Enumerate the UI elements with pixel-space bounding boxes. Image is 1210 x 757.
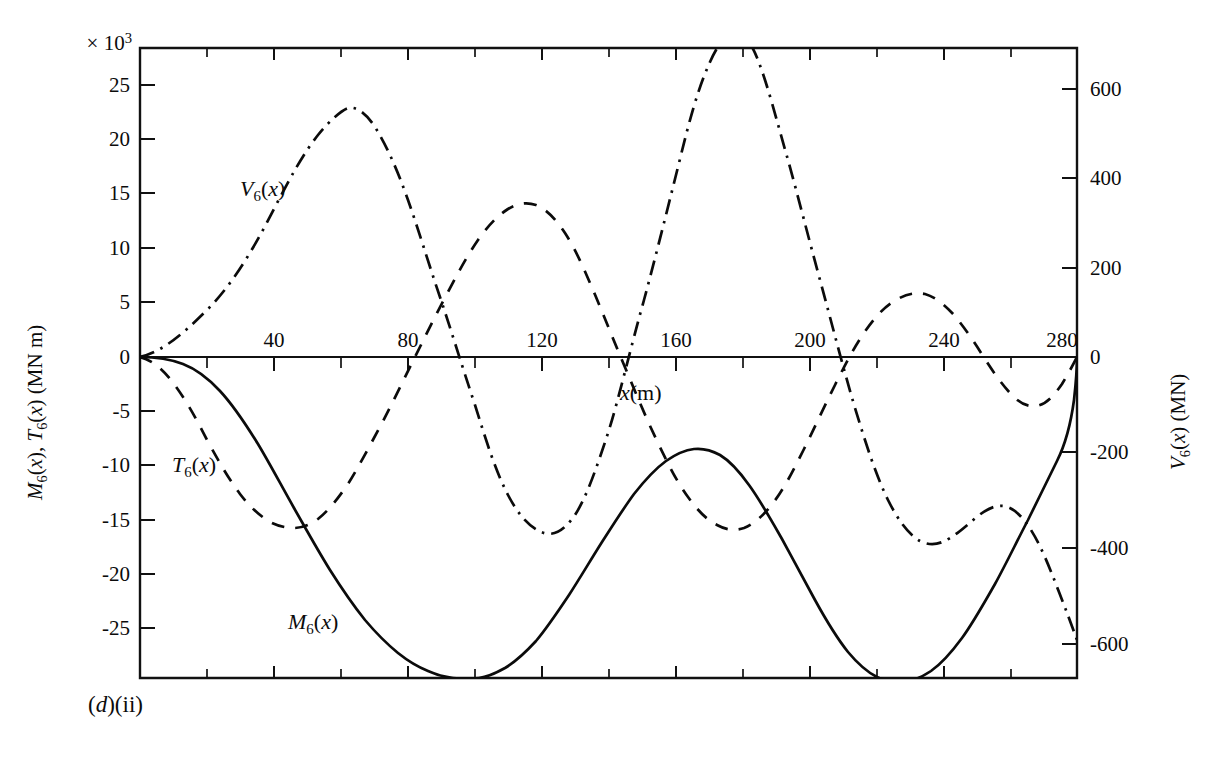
y-right-tick-label: 600: [1090, 77, 1122, 101]
y-left-tick-label: -5: [113, 399, 131, 423]
y-left-tick-label: 20: [109, 127, 130, 151]
y-right-axis-title: V6(x) (MN): [1166, 374, 1193, 470]
svg-text:× 103: × 103: [87, 30, 132, 55]
series-label-t6: T6(x): [172, 452, 216, 480]
y-left-tick-label: -20: [102, 562, 130, 586]
series-label-v6: V6(x): [240, 176, 285, 204]
right-axis-tick-labels: 600 400 200 0 -200 -400 -600: [1090, 77, 1129, 656]
y-left-tick-label: -15: [102, 508, 130, 532]
y-right-tick-label: 0: [1090, 345, 1101, 369]
chart-svg: 25 20 15 10 5 0 -5 -10 -15 -20 -25 × 103…: [0, 0, 1210, 757]
x-tick-label: 200: [794, 328, 826, 352]
y-right-tick-label: -200: [1090, 440, 1129, 464]
y-right-tick-label: -600: [1090, 632, 1129, 656]
y-left-axis-title: M6(x), T6(x) (MN m): [23, 325, 50, 501]
right-axis-ticks: [1062, 89, 1077, 644]
x-axis-tick-labels: 40 80 120 160 200 240 280: [264, 328, 1078, 352]
svg-text:(d)(ii): (d)(ii): [88, 692, 143, 717]
y-right-tick-label: 200: [1090, 256, 1122, 280]
x-axis-major-ticks: [274, 357, 1077, 371]
x-tick-label: 280: [1046, 328, 1078, 352]
left-axis-tick-labels: 25 20 15 10 5 0 -5 -10 -15 -20 -25: [102, 73, 130, 640]
y-left-multiplier: × 103: [87, 30, 132, 55]
y-left-tick-label: 10: [109, 236, 130, 260]
x-axis-minor-ticks: [207, 357, 1011, 368]
y-right-tick-label: -400: [1090, 536, 1129, 560]
y-left-tick-label: 0: [120, 345, 131, 369]
figure-caption: (d)(ii): [88, 692, 143, 717]
x-tick-label: 160: [660, 328, 692, 352]
y-right-tick-label: 400: [1090, 166, 1122, 190]
y-left-tick-label: 15: [109, 181, 130, 205]
caption-italic-letter: d: [96, 692, 108, 717]
y-left-tick-label: 5: [120, 290, 131, 314]
y-left-tick-label: -25: [102, 616, 130, 640]
x-tick-label: 80: [398, 328, 419, 352]
figure-container: 25 20 15 10 5 0 -5 -10 -15 -20 -25 × 103…: [0, 0, 1210, 757]
curve-annotations: V6(x) T6(x) M6(x) x(m): [172, 176, 662, 637]
y-left-tick-label: 25: [109, 73, 130, 97]
series-line-m6: [140, 357, 1077, 682]
svg-text:M6(x), T6(x) (MN m): M6(x), T6(x) (MN m): [23, 325, 50, 501]
x-tick-label: 40: [264, 328, 285, 352]
bottom-frame-ticks: [207, 666, 1011, 678]
y-left-multiplier-text: × 10: [87, 31, 125, 55]
x-tick-label: 240: [928, 328, 960, 352]
y-left-tick-label: -10: [102, 453, 130, 477]
top-frame-ticks: [207, 48, 1011, 60]
svg-text:V6(x) (MN): V6(x) (MN): [1166, 374, 1193, 470]
x-axis-title: x(m): [619, 380, 662, 405]
series-label-m6: M6(x): [287, 609, 338, 637]
x-tick-label: 120: [526, 328, 558, 352]
